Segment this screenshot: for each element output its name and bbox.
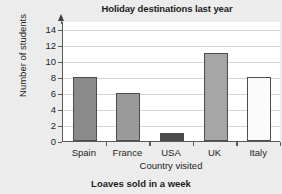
gridline xyxy=(63,62,280,63)
y-axis-tick-label: 8 xyxy=(30,72,56,83)
bar xyxy=(204,53,228,141)
x-axis-label: Country visited xyxy=(62,160,280,171)
x-axis-tick xyxy=(193,142,194,146)
x-axis-tick xyxy=(280,142,281,146)
y-axis-tick xyxy=(58,78,62,79)
y-axis-tick xyxy=(58,94,62,95)
y-axis-tick-label: 4 xyxy=(30,104,56,115)
x-axis-tick xyxy=(149,142,150,146)
bar xyxy=(160,133,184,141)
next-chart-caption: Loaves sold in a week xyxy=(0,178,282,189)
gridline xyxy=(63,30,280,31)
y-axis-tick-label: 14 xyxy=(30,24,56,35)
x-axis-tick-label: France xyxy=(106,147,150,158)
y-axis-tick xyxy=(58,46,62,47)
y-axis-tick xyxy=(58,126,62,127)
y-axis-label: Number of students xyxy=(17,0,28,116)
bar xyxy=(73,77,97,141)
y-axis-tick-label: 6 xyxy=(30,88,56,99)
y-axis-tick-label: 2 xyxy=(30,120,56,131)
bar-chart-figure: Holiday destinations last year Number of… xyxy=(0,0,282,194)
plot-area xyxy=(62,22,280,142)
y-axis-tick-label: 10 xyxy=(30,56,56,67)
y-axis-tick-label: 0 xyxy=(30,136,56,147)
bar xyxy=(247,77,271,141)
x-axis-tick xyxy=(236,142,237,146)
x-axis-tick xyxy=(106,142,107,146)
y-axis-tick xyxy=(58,30,62,31)
x-axis-tick-label: Italy xyxy=(236,147,280,158)
y-axis-tick xyxy=(58,62,62,63)
y-axis-tick xyxy=(58,110,62,111)
bar xyxy=(116,93,140,141)
x-axis-tick-label: Spain xyxy=(62,147,106,158)
chart-title: Holiday destinations last year xyxy=(62,3,272,14)
y-axis-tick-label: 12 xyxy=(30,40,56,51)
x-axis-tick-label: USA xyxy=(149,147,193,158)
gridline xyxy=(63,46,280,47)
y-axis-tick xyxy=(58,142,62,143)
x-axis-tick-label: UK xyxy=(193,147,237,158)
